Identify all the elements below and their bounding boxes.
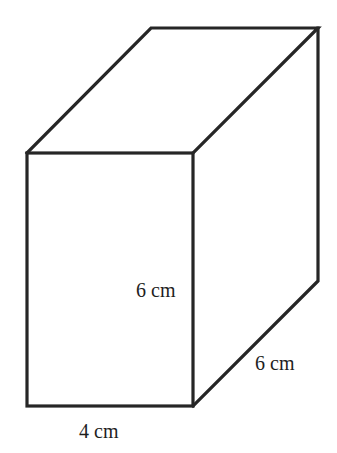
height-label: 6 cm <box>136 279 176 301</box>
top-face-edges <box>27 28 318 153</box>
right-face-edges <box>193 28 318 406</box>
width-label: 4 cm <box>79 420 119 442</box>
depth-label: 6 cm <box>255 352 295 374</box>
cuboid-diagram: 6 cm 6 cm 4 cm <box>0 0 337 453</box>
